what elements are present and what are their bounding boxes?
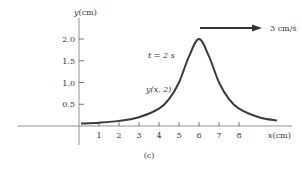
x-axis-label: x(cm) bbox=[268, 131, 291, 140]
y-tick-label: 1.5 bbox=[62, 57, 75, 66]
panel-label: (c) bbox=[144, 151, 155, 160]
x-axis-label-unit: (cm) bbox=[273, 131, 291, 140]
x-tick-label: 6 bbox=[196, 131, 201, 140]
y-tick-label: 1.0 bbox=[62, 79, 75, 88]
x-tick-label: 1 bbox=[96, 131, 101, 140]
velocity-arrow-icon bbox=[200, 25, 262, 32]
y-tick-label: 2.0 bbox=[62, 35, 75, 44]
x-tick-label: 3 bbox=[136, 131, 141, 140]
y-tick-label: 0.5 bbox=[62, 100, 75, 109]
series-line-pulse bbox=[81, 39, 277, 124]
y-ticks: 0.51.01.52.0 bbox=[62, 35, 84, 109]
x-tick-label: 8 bbox=[236, 131, 241, 140]
x-ticks: 12345678 bbox=[96, 122, 241, 140]
velocity-label: 3 cm/s bbox=[270, 24, 297, 33]
chart: 12345678 0.51.01.52.0 y(cm) x(cm) 3 cm/s… bbox=[0, 0, 302, 170]
curve-label: y(x, 2) bbox=[145, 85, 171, 94]
axes bbox=[18, 18, 292, 145]
x-tick-label: 5 bbox=[176, 131, 181, 140]
y-axis-label-unit: (cm) bbox=[79, 8, 97, 17]
time-label: t = 2 s bbox=[148, 51, 175, 60]
x-tick-label: 7 bbox=[216, 131, 221, 140]
y-axis-label: y(cm) bbox=[73, 8, 97, 17]
x-tick-label: 2 bbox=[116, 131, 121, 140]
x-tick-label: 4 bbox=[156, 131, 161, 140]
